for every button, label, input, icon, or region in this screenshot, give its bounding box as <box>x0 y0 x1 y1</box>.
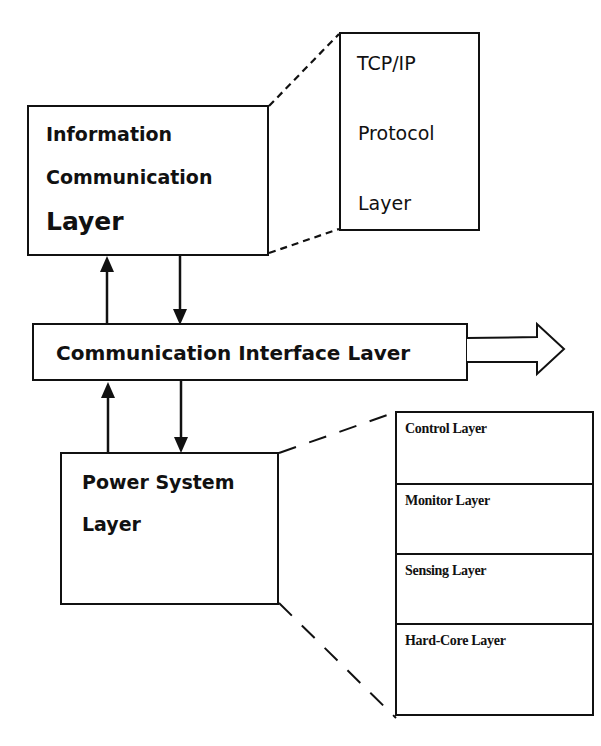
tcpip-label-line1: TCP/IP <box>357 52 416 74</box>
sensing-layer-row: Sensing Layer <box>397 555 592 625</box>
info-comm-label-line3: Layer <box>46 207 124 236</box>
power-system-label-line2: Layer <box>82 513 141 535</box>
arrow-up-to-interface-icon <box>101 382 115 454</box>
dashed-zoom-lines-tcpip <box>269 34 339 253</box>
arrow-up-to-info-comm-icon <box>100 256 114 325</box>
control-layer-label: Control Layer <box>405 421 487 437</box>
hard-core-layer-label: Hard-Core Layer <box>405 633 506 649</box>
info-comm-label-line1: Information <box>46 123 172 145</box>
power-detail-stack-box: Control Layer Monitor Layer Sensing Laye… <box>395 411 594 716</box>
tcpip-protocol-layer-box: TCP/IP Protocol Layer <box>339 32 480 231</box>
control-layer-row: Control Layer <box>397 413 592 485</box>
tcpip-label-line3: Layer <box>358 192 411 214</box>
info-comm-label-line2: Communication <box>46 166 212 188</box>
dashed-zoom-lines-power <box>279 412 396 718</box>
sensing-layer-label: Sensing Layer <box>405 563 486 579</box>
monitor-layer-row: Monitor Layer <box>397 485 592 555</box>
power-system-label-line1: Power System <box>82 471 235 493</box>
monitor-layer-label: Monitor Layer <box>405 493 490 509</box>
hollow-arrow-right-icon <box>467 324 564 374</box>
arrow-down-to-power-icon <box>174 381 188 453</box>
communication-interface-layer-box: Communication Interface Laver <box>32 323 468 381</box>
arrow-down-to-interface-icon <box>173 256 187 325</box>
information-communication-layer-box: Information Communication Layer <box>27 105 269 256</box>
power-system-layer-box: Power System Layer <box>60 452 279 605</box>
tcpip-label-line2: Protocol <box>358 122 435 144</box>
comm-interface-label: Communication Interface Laver <box>56 341 410 365</box>
hard-core-layer-row: Hard-Core Layer <box>397 625 592 713</box>
